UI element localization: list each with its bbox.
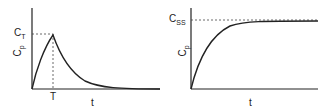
left-x-label: t	[91, 98, 94, 108]
right-concentration-curve	[191, 21, 318, 89]
left-t-marker: T	[50, 92, 56, 102]
left-y-label: Cp	[13, 45, 23, 56]
right-level-label: CSS	[169, 14, 186, 24]
right-y-label: Cp	[178, 45, 188, 56]
left-level-label: CT	[14, 28, 26, 38]
left-panel	[32, 8, 160, 89]
right-panel	[191, 8, 318, 89]
left-concentration-curve	[32, 35, 160, 89]
right-x-label: t	[249, 98, 252, 108]
